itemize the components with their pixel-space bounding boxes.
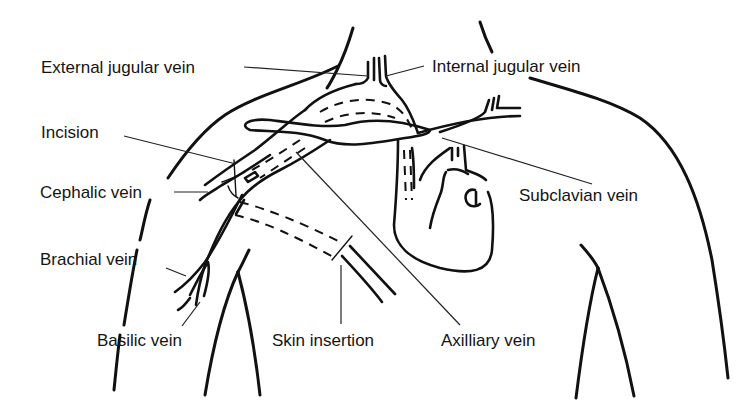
body-outline xyxy=(114,22,728,398)
label-incision: Incision xyxy=(41,124,99,141)
catheter-tunnel xyxy=(235,200,395,302)
clavicle xyxy=(245,120,430,145)
heart xyxy=(394,140,493,271)
label-brachial-vein: Brachial vein xyxy=(40,251,137,268)
brachiocephalic-vein xyxy=(305,84,356,110)
label-external-jugular-vein: External jugular vein xyxy=(41,59,195,76)
label-basilic-vein: Basilic vein xyxy=(97,332,182,349)
label-internal-jugular-vein: Internal jugular vein xyxy=(432,58,580,75)
label-skin-insertion: Skin insertion xyxy=(272,332,374,349)
label-cephalic-vein: Cephalic vein xyxy=(40,184,142,201)
label-subclavian-vein: Subclavian vein xyxy=(519,187,638,204)
label-axilliary-vein: Axilliary vein xyxy=(441,332,535,349)
subclavian-vein xyxy=(418,116,520,133)
